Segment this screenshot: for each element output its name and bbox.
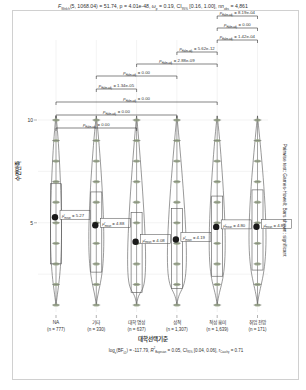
x-axis-label: 대학선택기준 bbox=[138, 335, 168, 343]
pairwise-bracket: pHolm-adj. = 0.00 bbox=[56, 109, 177, 118]
x-tick-label: NA bbox=[53, 320, 60, 325]
x-n-label: (n = 1,639) bbox=[206, 327, 228, 332]
bracket-label: pHolm-adj. = 1.42e-04 bbox=[219, 34, 256, 41]
bracket-label: pHolm-adj. = 0.00 bbox=[82, 122, 110, 129]
pairwise-bracket: pHolm-adj. = 1.34e-05 bbox=[96, 83, 136, 92]
x-tick-label: 성적 bbox=[173, 319, 181, 326]
x-n-label: (n = 637) bbox=[128, 327, 147, 332]
bracket-label: pHolm-adj. = 5.62e-12 bbox=[178, 46, 215, 53]
x-n-label: (n = 171) bbox=[248, 327, 267, 332]
x-tick-label: 대학 명성 bbox=[128, 319, 145, 326]
mean-point bbox=[253, 223, 259, 229]
pairwise-bracket: pHolm-adj. = 8.19e-04 bbox=[217, 10, 257, 19]
violin-chart: 510수면만족μ̂mean = 5.27NA(n = 777)μ̂mean = … bbox=[0, 0, 306, 390]
bracket-label: pHolm-adj. = 0.00 bbox=[223, 22, 251, 29]
grid bbox=[38, 40, 268, 312]
pairwise-bracket: pHolm-adj. = 1.42e-04 bbox=[217, 34, 257, 43]
violin-group: μ̂mean = 5.27 bbox=[51, 116, 91, 307]
y-axis-label: 수면만족 bbox=[14, 161, 22, 181]
y-tick-label: 10 bbox=[27, 117, 33, 123]
x-n-label: (n = 330) bbox=[87, 327, 106, 332]
right-caption: Pairwise test: Games-Howell; Bars shown:… bbox=[282, 143, 287, 257]
mean-point bbox=[92, 222, 98, 228]
bracket-label: pHolm-adj. = 0.00 bbox=[122, 96, 150, 103]
bracket-label: pHolm-adj. = 1.34e-05 bbox=[98, 83, 135, 90]
violin-group: μ̂mean = 4.80 bbox=[209, 116, 251, 307]
mean-point bbox=[173, 236, 179, 242]
pairwise-bracket: pHolm-adj. = 0.00 bbox=[217, 22, 257, 31]
bracket-label: pHolm-adj. = 0.00 bbox=[122, 70, 150, 77]
bracket-label: pHolm-adj. = 8.19e-04 bbox=[219, 10, 256, 17]
y-tick-label: 5 bbox=[30, 220, 33, 226]
bracket-label: pHolm-adj. = 0.00 bbox=[102, 109, 130, 116]
mean-point bbox=[52, 214, 58, 220]
mean-point bbox=[213, 224, 219, 230]
x-n-label: (n = 777) bbox=[47, 327, 66, 332]
pairwise-bracket: pHolm-adj. = 5.62e-12 bbox=[177, 46, 217, 55]
x-tick-label: 취업 전망 bbox=[249, 319, 267, 326]
violin-group: μ̂mean = 4.88 bbox=[89, 116, 131, 307]
x-tick-label: 기타 bbox=[92, 319, 101, 326]
chart-footer: loge(BF01) = -117.79, R2Bayesian = 0.05,… bbox=[109, 346, 244, 355]
x-tick-label: 적성 흥미 bbox=[209, 319, 226, 326]
mean-point bbox=[132, 238, 138, 244]
x-n-label: (n = 1,307) bbox=[166, 327, 188, 332]
violin-group: μ̂mean = 4.08 bbox=[128, 116, 171, 307]
violin-group: μ̂mean = 4.19 bbox=[167, 116, 211, 307]
